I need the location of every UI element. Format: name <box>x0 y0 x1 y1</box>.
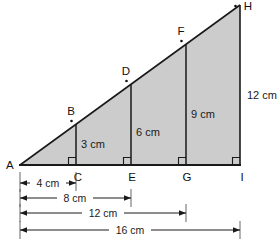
vertex-label-I: I <box>240 171 243 183</box>
length-label-CB: 3 cm <box>81 138 105 150</box>
length-label-IH: 12 cm <box>247 89 277 101</box>
vertex-label-D: D <box>122 65 130 77</box>
dimension-arrow-left-16cm <box>20 227 27 233</box>
dimension-label-8cm: 8 cm <box>64 192 87 204</box>
dimension-label-16cm: 16 cm <box>116 224 145 236</box>
angle-dot-F <box>180 40 183 43</box>
vertex-label-A: A <box>6 159 14 171</box>
angle-dot-H <box>234 5 237 8</box>
dimension-label-12cm: 12 cm <box>89 207 118 219</box>
dimension-arrow-left-12cm <box>20 210 27 216</box>
vertex-label-F: F <box>177 25 184 37</box>
angle-dot-D <box>125 80 128 83</box>
dimension-arrow-right-8cm <box>124 195 131 201</box>
vertex-label-B: B <box>67 105 75 117</box>
length-label-GF: 9 cm <box>191 108 215 120</box>
dimension-arrow-right-12cm <box>179 210 186 216</box>
dimension-arrow-left-4cm <box>20 180 27 186</box>
dimension-label-4cm: 4 cm <box>37 177 60 189</box>
figure-canvas: A B C D E F G H I 3 cm 6 cm 9 cm 12 cm 4… <box>0 0 280 245</box>
length-label-ED: 6 cm <box>136 126 160 138</box>
vertex-label-H: H <box>244 0 252 12</box>
geometry-figure: A B C D E F G H I 3 cm 6 cm 9 cm 12 cm 4… <box>0 0 280 245</box>
vertex-label-C: C <box>74 171 82 183</box>
vertex-label-G: G <box>183 171 192 183</box>
vertex-label-E: E <box>128 171 136 183</box>
dimension-arrow-left-8cm <box>20 195 27 201</box>
dimension-arrow-right-16cm <box>233 227 240 233</box>
angle-dot-B <box>70 120 73 123</box>
